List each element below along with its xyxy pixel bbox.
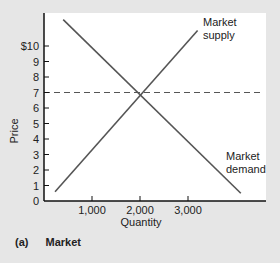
y-tick-label: 8 bbox=[33, 71, 39, 83]
y-tick-label: $10 bbox=[21, 40, 39, 52]
market-supply-label: Marketsupply bbox=[203, 16, 237, 41]
figure-caption: (a) Market bbox=[15, 236, 81, 248]
y-tick-label: 6 bbox=[33, 102, 39, 114]
y-tick-label: 0 bbox=[33, 195, 39, 207]
x-tick-label: 1,000 bbox=[78, 204, 106, 216]
y-tick-label: 1 bbox=[33, 180, 39, 192]
caption-tag: (a) bbox=[15, 236, 28, 248]
y-tick-label: 3 bbox=[33, 149, 39, 161]
supply-demand-chart: 0123456789$10 1,0002,0003,000 Price Quan… bbox=[0, 0, 280, 263]
x-axis-title: Quantity bbox=[121, 216, 162, 228]
caption-text: Market bbox=[46, 236, 81, 248]
y-tick-label: 9 bbox=[33, 56, 39, 68]
y-tick-label: 2 bbox=[33, 164, 39, 176]
y-tick-label: 7 bbox=[33, 87, 39, 99]
y-axis-title: Price bbox=[8, 118, 20, 143]
y-tick-label: 4 bbox=[33, 133, 39, 145]
y-tick-label: 5 bbox=[33, 118, 39, 130]
x-tick-label: 2,000 bbox=[126, 204, 154, 216]
x-tick-label: 3,000 bbox=[174, 204, 202, 216]
